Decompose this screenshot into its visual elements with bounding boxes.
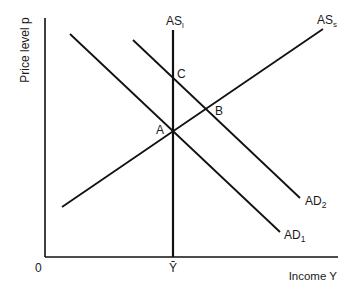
point-b-label: B: [215, 104, 223, 118]
as-long-run-label-main: AS: [166, 14, 182, 28]
as-long-run-label-sub: l: [182, 21, 184, 30]
as-long-run-label: ASl: [166, 14, 184, 30]
origin-label: 0: [35, 261, 42, 275]
as-short-run-label-main: AS: [317, 13, 333, 27]
ad2-label-sub: 2: [322, 200, 327, 210]
ad1-label: AD1: [284, 228, 306, 244]
point-c-label: C: [177, 67, 186, 81]
as-short-run-label: ASs: [317, 13, 337, 29]
ad1-curve: [70, 34, 280, 232]
y-axis-label: Price level p: [18, 17, 32, 83]
ad1-label-sub: 1: [301, 234, 306, 244]
y-bar-label: Ȳ: [169, 261, 177, 275]
x-axis-label: Income Y: [289, 270, 338, 282]
ad1-label-main: AD: [284, 228, 301, 242]
ad-as-diagram: Price level p 0 Income Y Ȳ ASl ASs AD1 A…: [0, 0, 357, 289]
point-a-label: A: [156, 123, 164, 137]
as-short-run-curve: [62, 29, 323, 207]
as-short-run-label-sub: s: [333, 20, 337, 29]
ad2-curve: [133, 40, 300, 198]
ad2-label-main: AD: [305, 194, 322, 208]
ad2-label: AD2: [305, 194, 327, 210]
